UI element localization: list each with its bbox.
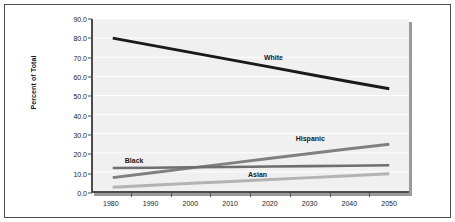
- chart-figure: Percent of Total 0.010.020.030.040.050.0…: [0, 0, 455, 222]
- chart-lines-svg: [93, 19, 409, 191]
- series-line-black: [113, 165, 390, 168]
- y-tick-label: 30.0: [51, 132, 87, 139]
- y-tick-label: 60.0: [51, 74, 87, 81]
- y-tick-label: 40.0: [51, 112, 87, 119]
- x-tick-label: 2020: [262, 200, 278, 207]
- x-tick-mark: [131, 193, 132, 197]
- x-tick-label: 2050: [381, 200, 397, 207]
- y-axis-tick-labels: 0.010.020.030.040.050.060.070.080.090.0: [51, 19, 87, 193]
- y-tick-label: 0.0: [51, 190, 87, 197]
- series-label-hispanic: Hispanic: [296, 135, 325, 142]
- series-label-black: Black: [125, 157, 144, 164]
- x-tick-label: 1980: [103, 200, 119, 207]
- series-label-asian: Asian: [248, 171, 267, 178]
- y-tick-label: 20.0: [51, 151, 87, 158]
- x-tick-mark: [250, 193, 251, 197]
- x-tick-label: 2030: [302, 200, 318, 207]
- x-tick-mark: [210, 193, 211, 197]
- x-tick-mark: [290, 193, 291, 197]
- x-tick-mark: [369, 193, 370, 197]
- x-tick-label: 2010: [222, 200, 238, 207]
- series-line-white: [113, 38, 390, 89]
- x-axis-tick-labels: 19801990200020102020203020402050: [91, 197, 409, 211]
- x-tick-mark: [171, 193, 172, 197]
- x-tick-mark: [330, 193, 331, 197]
- y-tick-label: 10.0: [51, 170, 87, 177]
- x-tick-label: 2000: [183, 200, 199, 207]
- x-tick-label: 1990: [143, 200, 159, 207]
- y-tick-label: 80.0: [51, 35, 87, 42]
- y-axis-title: Percent of Total: [30, 33, 37, 133]
- x-tick-label: 2040: [342, 200, 358, 207]
- y-tick-label: 90.0: [51, 16, 87, 23]
- plot-area: WhiteHispanicBlackAsian: [91, 19, 409, 193]
- y-tick-label: 50.0: [51, 93, 87, 100]
- series-label-white: White: [264, 54, 283, 61]
- chart-outer-frame: Percent of Total 0.010.020.030.040.050.0…: [4, 4, 451, 218]
- y-tick-label: 70.0: [51, 54, 87, 61]
